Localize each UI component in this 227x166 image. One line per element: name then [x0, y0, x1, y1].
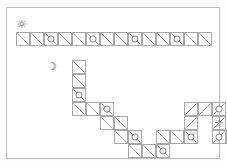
cell-diagonal-down — [73, 75, 84, 86]
cell-diagonal-down — [171, 131, 182, 142]
sun-icon: ☼ — [16, 19, 28, 31]
cell-diagonal-down — [157, 131, 168, 142]
cell-diagonal-down — [31, 33, 42, 44]
cell-circle — [160, 148, 166, 154]
cell-circle — [216, 134, 222, 140]
cell-diagonal-down — [115, 117, 126, 128]
grid-cell — [114, 116, 128, 130]
grid-cell — [72, 102, 86, 116]
grid-cell — [184, 102, 198, 116]
grid-cell — [226, 130, 227, 144]
grid-cell — [142, 144, 156, 158]
grid-cell — [114, 130, 128, 144]
grid-cell — [72, 88, 86, 102]
grid-cell — [184, 130, 198, 144]
grid-cell — [170, 32, 184, 46]
moon-icon: ☽ — [46, 61, 58, 73]
cell-diagonal-up — [185, 103, 196, 114]
cell-diagonal-down — [143, 145, 154, 156]
cell-diagonal-up — [185, 117, 196, 128]
cell-diagonal-down — [115, 131, 126, 142]
grid-cell — [128, 32, 142, 46]
grid-cell — [198, 32, 212, 46]
cell-diagonal-down — [199, 33, 210, 44]
grid-cell — [198, 102, 212, 116]
cell-diagonal-down — [129, 145, 140, 156]
cell-diagonal-down — [185, 33, 196, 44]
cell-diagonal-down — [17, 33, 28, 44]
worksheet-page: ☼☽☆ — [0, 0, 227, 166]
grid-cell — [128, 144, 142, 158]
grid-cell — [30, 32, 44, 46]
cell-diagonal-down — [87, 103, 98, 114]
cell-diagonal-down — [73, 33, 84, 44]
cell-circle — [188, 134, 194, 140]
cell-circle — [216, 106, 222, 112]
cell-diagonal-down — [101, 33, 112, 44]
cell-diagonal-down — [143, 33, 154, 44]
cell-circle — [132, 36, 138, 42]
cell-diagonal-down — [73, 61, 84, 72]
cell-circle — [132, 134, 138, 140]
grid-cell — [156, 130, 170, 144]
grid-cell — [86, 32, 100, 46]
cell-diagonal-down — [59, 33, 70, 44]
cell-circle — [48, 36, 54, 42]
cell-circle — [174, 36, 180, 42]
grid-cell — [100, 116, 114, 130]
grid-cell — [16, 32, 30, 46]
grid-cell — [58, 32, 72, 46]
cell-diagonal-down — [157, 33, 168, 44]
worksheet-frame: ☼☽☆ — [6, 7, 220, 159]
grid-cell — [128, 130, 142, 144]
cell-diagonal-down — [101, 117, 112, 128]
cell-circle — [76, 92, 82, 98]
grid-cell — [184, 32, 198, 46]
grid-cell — [86, 102, 100, 116]
grid-cell — [142, 32, 156, 46]
cell-circle — [104, 106, 110, 112]
grid-cell — [212, 102, 226, 116]
cell-diagonal-down — [115, 33, 126, 44]
grid-cell — [156, 32, 170, 46]
cell-diagonal-down — [73, 103, 84, 114]
grid-cell — [100, 102, 114, 116]
grid-cell — [44, 32, 58, 46]
grid-cell — [72, 32, 86, 46]
grid-cell — [72, 60, 86, 74]
grid-cell — [184, 116, 198, 130]
grid-cell — [72, 74, 86, 88]
star-icon: ☆ — [213, 118, 225, 130]
grid-cell — [156, 144, 170, 158]
grid-cell — [170, 130, 184, 144]
cell-diagonal-up — [199, 103, 210, 114]
path-grid-board: ☼☽☆ — [7, 8, 221, 160]
grid-cell — [114, 32, 128, 46]
grid-cell — [100, 32, 114, 46]
cell-circle — [90, 36, 96, 42]
grid-cell — [212, 130, 226, 144]
